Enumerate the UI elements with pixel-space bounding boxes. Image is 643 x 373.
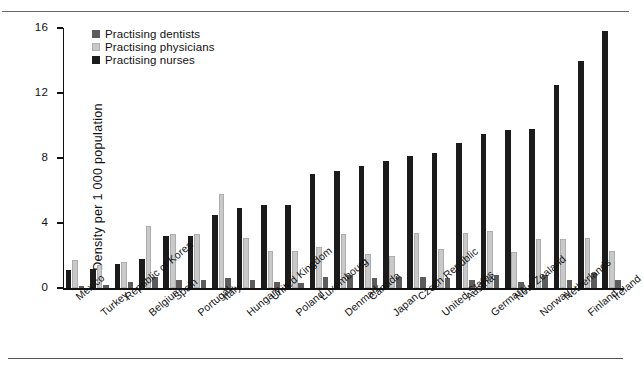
legend-item-nurses: Practising nurses <box>92 54 214 66</box>
bar-group <box>185 28 209 288</box>
bar-group <box>161 28 185 288</box>
y-tick-label: 16 <box>35 21 48 33</box>
x-axis-label: Turkey <box>98 288 130 318</box>
bar-dentists <box>445 278 451 288</box>
bar-dentists <box>615 280 621 288</box>
bar-group <box>453 28 477 288</box>
bar-nurses <box>188 236 194 288</box>
bar-dentists <box>396 277 402 288</box>
bar-physicians <box>243 238 249 288</box>
bar-group <box>575 28 599 288</box>
bar-dentists <box>176 280 182 288</box>
bar-nurses <box>90 269 96 289</box>
bar-dentists <box>494 275 500 288</box>
bar-nurses <box>456 143 462 288</box>
bar-dentists <box>225 278 231 288</box>
bar-dentists <box>128 282 134 289</box>
bar-nurses <box>212 215 218 288</box>
bar-nurses <box>481 134 487 288</box>
bar-group <box>112 28 136 288</box>
x-axis-label: Poland <box>293 288 326 319</box>
bar-dentists <box>469 280 475 288</box>
bar-physicians <box>146 226 152 288</box>
bar-group <box>234 28 258 288</box>
bar-nurses <box>163 236 169 288</box>
bar-nurses <box>261 205 267 288</box>
legend-swatch-physicians <box>92 43 100 51</box>
bar-nurses <box>407 156 413 288</box>
bar-dentists <box>420 277 426 288</box>
legend-item-physicians: Practising physicians <box>92 41 214 53</box>
bar-nurses <box>115 264 121 288</box>
bar-physicians <box>389 256 395 289</box>
bar-group <box>502 28 526 288</box>
bar-group <box>526 28 550 288</box>
bar-dentists <box>298 283 304 288</box>
bar-physicians <box>365 254 371 288</box>
y-tick-label: 12 <box>35 86 48 98</box>
x-axis-line <box>63 288 624 290</box>
bar-nurses <box>578 61 584 289</box>
bar-physicians <box>292 251 298 288</box>
bar-dentists <box>274 282 280 289</box>
legend-item-dentists: Practising dentists <box>92 28 214 40</box>
y-tick-label: 0 <box>41 281 48 293</box>
bar-physicians <box>170 234 176 288</box>
bar-group <box>331 28 355 288</box>
bar-physicians <box>438 249 444 288</box>
bar-dentists <box>323 277 329 288</box>
bar-physicians <box>316 247 322 288</box>
bar-physicians <box>72 260 78 288</box>
bar-dentists <box>542 275 548 288</box>
bar-dentists <box>591 273 597 288</box>
bar-group <box>404 28 428 288</box>
bar-groups <box>63 28 624 288</box>
bar-dentists <box>201 280 207 288</box>
legend-label-dentists: Practising dentists <box>105 28 200 40</box>
bar-physicians <box>536 239 542 288</box>
bar-group <box>283 28 307 288</box>
bar-physicians <box>194 234 200 288</box>
chart-legend: Practising dentists Practising physician… <box>92 28 214 66</box>
legend-label-nurses: Practising nurses <box>105 54 195 66</box>
bar-group <box>356 28 380 288</box>
bar-group <box>258 28 282 288</box>
bar-nurses <box>334 171 340 288</box>
bar-dentists <box>103 285 109 288</box>
bar-physicians <box>463 233 469 288</box>
x-axis-label: Finland <box>585 286 620 318</box>
bar-nurses <box>505 130 511 288</box>
bar-dentists <box>518 282 524 289</box>
bar-nurses <box>285 205 291 288</box>
bar-physicians <box>268 251 274 288</box>
bar-physicians <box>560 239 566 288</box>
bar-nurses <box>383 161 389 288</box>
figure-bottom-rule <box>8 358 623 359</box>
figure-caption-remnant <box>2 0 629 7</box>
bar-physicians <box>487 231 493 288</box>
plot-area: 0481216 <box>63 28 624 289</box>
bar-dentists <box>250 280 256 288</box>
bar-group <box>87 28 111 288</box>
bar-group <box>600 28 624 288</box>
x-axis-label: Japan <box>390 290 420 318</box>
bar-group <box>429 28 453 288</box>
y-tick-label: 8 <box>41 151 48 163</box>
bar-dentists <box>347 275 353 288</box>
legend-label-physicians: Practising physicians <box>105 41 214 53</box>
bar-physicians <box>585 238 591 288</box>
bar-dentists <box>79 286 85 288</box>
bar-group <box>209 28 233 288</box>
bar-physicians <box>219 194 225 288</box>
bar-physicians <box>97 265 103 288</box>
bar-group <box>478 28 502 288</box>
bar-nurses <box>139 259 145 288</box>
bar-dentists <box>567 280 573 288</box>
bar-group <box>307 28 331 288</box>
bar-nurses <box>602 31 608 288</box>
bar-nurses <box>237 208 243 288</box>
bar-group <box>136 28 160 288</box>
bar-nurses <box>554 85 560 288</box>
bar-group <box>63 28 87 288</box>
